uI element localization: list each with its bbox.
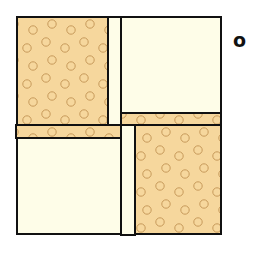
left-horizontal-patterned-band [16,125,121,138]
top-left-patterned-block [17,17,108,125]
quilt-block-diagram [0,0,267,256]
bottom-vertical-plain-strip [121,125,135,235]
figure-label: o [233,31,246,50]
top-vertical-plain-strip [108,17,121,125]
quilt-pieces [16,17,221,235]
bottom-left-plain-block [17,138,121,234]
top-right-plain-block [121,17,221,113]
right-horizontal-patterned-band [121,113,221,125]
bottom-right-patterned-block [135,125,221,234]
